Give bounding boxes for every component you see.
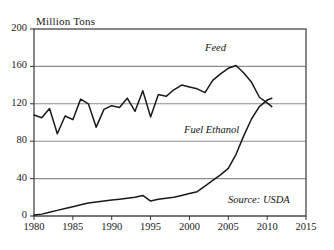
x-tick-label: 1990 bbox=[92, 221, 132, 232]
source-note: Source: USDA bbox=[228, 194, 290, 205]
series-label-feed: Feed bbox=[205, 42, 226, 53]
chart-container: Million Tons 04080120160200 198019851990… bbox=[0, 0, 334, 250]
x-tick-label: 2005 bbox=[208, 221, 248, 232]
plot-frame bbox=[34, 29, 306, 216]
y-tick-label: 120 bbox=[1, 97, 27, 108]
y-tick-label: 200 bbox=[1, 22, 27, 33]
x-tick-label: 2010 bbox=[247, 221, 287, 232]
x-tick-label: 1995 bbox=[131, 221, 171, 232]
x-tick-label: 2015 bbox=[286, 221, 326, 232]
x-tick-label: 1980 bbox=[14, 221, 54, 232]
y-tick-label: 160 bbox=[1, 59, 27, 70]
chart-canvas bbox=[0, 0, 334, 250]
y-tick-label: 0 bbox=[1, 209, 27, 220]
y-tick-label: 80 bbox=[1, 134, 27, 145]
x-tick-label: 2000 bbox=[169, 221, 209, 232]
x-tick-label: 1985 bbox=[53, 221, 93, 232]
y-tick-label: 40 bbox=[1, 172, 27, 183]
series-label-fuel-ethanol: Fuel Ethanol bbox=[184, 124, 239, 135]
